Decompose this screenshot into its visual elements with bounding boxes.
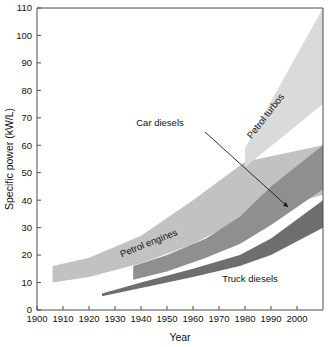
x-tick-label: 2000 [286,313,307,324]
x-tick-label: 1920 [78,313,99,324]
y-tick-label: 100 [16,30,32,41]
y-tick-label: 20 [21,249,32,260]
x-tick-label: 1960 [182,313,203,324]
y-tick-label: 80 [21,85,32,96]
x-tick-label: 1980 [234,313,255,324]
band-label-truck-diesels: Truck diesels [222,273,278,284]
x-axis-title: Year [169,331,191,343]
y-tick-label: 90 [21,57,32,68]
x-tick-label: 1990 [260,313,281,324]
y-tick-label: 110 [17,2,32,13]
figure-container: 0102030405060708090100110190019101920193… [0,0,333,347]
y-tick-label: 30 [21,222,32,233]
x-tick-label: 1970 [208,313,229,324]
y-tick-label: 50 [21,167,32,178]
band-label-car-diesels: Car diesels [136,117,184,128]
x-tick-label: 1950 [156,313,177,324]
y-axis-title: Specific power (kW/L) [3,108,15,210]
y-tick-label: 10 [21,277,32,288]
y-tick-label: 60 [21,140,32,151]
x-tick-label: 1910 [52,313,73,324]
x-tick-label: 1940 [130,313,151,324]
x-tick-label: 1930 [104,313,125,324]
x-tick-label: 1900 [26,313,47,324]
y-tick-label: 70 [21,112,32,123]
y-tick-label: 40 [21,195,32,206]
specific-power-chart: 0102030405060708090100110190019101920193… [0,0,333,347]
